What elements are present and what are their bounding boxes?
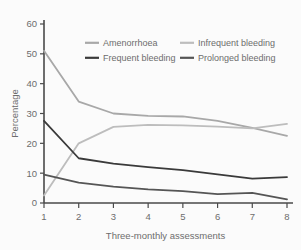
series-line-frequent-bleeding: [44, 121, 287, 179]
series-line-infrequent-bleeding: [44, 124, 287, 196]
x-tick-label: 1: [41, 211, 46, 222]
legend-item: Amenorrhoea: [85, 38, 158, 48]
legend-item: Infrequent bleeding: [180, 38, 275, 48]
x-tick-label: 5: [180, 211, 185, 222]
y-tick-label: 60: [26, 18, 37, 29]
legend-item: Frequent bleeding: [85, 53, 176, 63]
x-tick-label: 6: [215, 211, 220, 222]
legend-label: Infrequent bleeding: [198, 38, 275, 48]
y-axis-title: Percentage: [9, 89, 20, 138]
y-tick-label: 20: [26, 138, 37, 149]
x-tick-label: 8: [284, 211, 289, 222]
x-tick-label: 7: [250, 211, 255, 222]
legend-item: Prolonged bleeding: [180, 53, 276, 63]
legend-label: Prolonged bleeding: [198, 53, 276, 63]
x-tick-label: 2: [76, 211, 81, 222]
legend-label: Frequent bleeding: [103, 53, 176, 63]
chart-container: 010203040506012345678PercentageThree-mon…: [0, 0, 301, 250]
y-tick-label: 40: [26, 78, 37, 89]
line-chart: 010203040506012345678PercentageThree-mon…: [0, 0, 301, 250]
x-tick-label: 3: [111, 211, 116, 222]
y-tick-label: 30: [26, 108, 37, 119]
y-tick-label: 50: [26, 48, 37, 59]
y-tick-label: 0: [32, 197, 37, 208]
y-tick-label: 10: [26, 168, 37, 179]
series-line-amenorrhoea: [44, 51, 287, 136]
legend-label: Amenorrhoea: [103, 38, 158, 48]
x-tick-label: 4: [145, 211, 150, 222]
x-axis-title: Three-monthly assessments: [106, 230, 226, 241]
